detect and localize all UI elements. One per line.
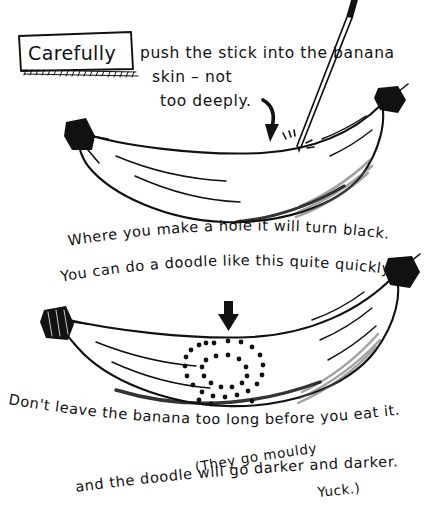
top-banana-shading: [296, 160, 372, 217]
step1-line2: skin – not: [152, 68, 232, 86]
badge-label: Carefully: [28, 42, 116, 64]
banana-instructions-artwork: Carefully push the stick into the banana…: [0, 0, 436, 514]
step1-line1: push the stick into the banana: [140, 44, 395, 62]
step2-line1: Where you make a hole it will turn black…: [67, 217, 391, 248]
step3-aside-line2: Yuck.): [316, 480, 362, 501]
step3-line1: Don't leave the banana too long before y…: [8, 391, 401, 427]
top-banana-left-tip: [64, 118, 95, 150]
step2-line2: You can do a doodle like this quite quic…: [58, 252, 395, 284]
step1-line3: too deeply.: [160, 92, 252, 110]
down-arrow-icon: [218, 301, 239, 331]
illustration-page: Carefully push the stick into the banana…: [0, 0, 436, 514]
bottom-banana-shading: [298, 334, 380, 403]
curved-down-arrow-icon: [263, 100, 279, 142]
carefully-badge: Carefully: [19, 32, 138, 77]
bottom-banana-right-tip: [384, 256, 420, 288]
spiral-dot-doodle: [183, 339, 266, 407]
bottom-banana-left-tip: [40, 306, 74, 340]
